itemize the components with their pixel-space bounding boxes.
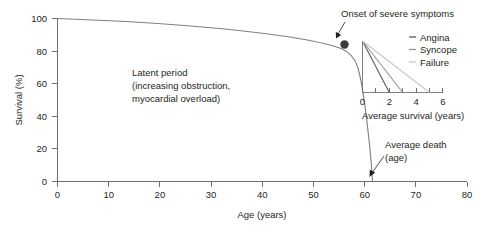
y-tick-label-20: 20 xyxy=(36,143,47,154)
x-axis-tick-labels: 0 10 20 30 40 50 60 70 80 xyxy=(55,189,473,200)
y-tick-label-80: 80 xyxy=(36,46,47,57)
x-axis-ticks xyxy=(58,182,468,188)
inset-x-tick-label-4: 4 xyxy=(413,96,418,107)
inset-x-tick-label-2: 2 xyxy=(387,96,392,107)
x-axis-title: Age (years) xyxy=(237,209,286,220)
legend-label-angina: Angina xyxy=(420,32,450,43)
inset-legend: Angina Syncope Failure xyxy=(409,32,457,68)
onset-annotation-label: Onset of severe symptoms xyxy=(341,8,454,19)
average-death-line-1: Average death xyxy=(385,139,447,150)
legend-label-failure: Failure xyxy=(420,57,449,68)
y-tick-label-60: 60 xyxy=(36,78,47,89)
legend-label-syncope: Syncope xyxy=(420,44,457,55)
x-tick-label-80: 80 xyxy=(462,189,473,200)
average-death-annotation: Average death (age) xyxy=(370,139,447,177)
inset-x-axis-title: Average survival (years) xyxy=(362,110,464,121)
x-tick-label-50: 50 xyxy=(308,189,319,200)
y-tick-label-40: 40 xyxy=(36,111,47,122)
y-axis-ticks xyxy=(52,19,58,182)
x-tick-label-10: 10 xyxy=(103,189,114,200)
x-tick-label-30: 30 xyxy=(206,189,217,200)
x-tick-label-20: 20 xyxy=(155,189,166,200)
y-tick-label-100: 100 xyxy=(31,13,47,24)
x-tick-label-70: 70 xyxy=(411,189,422,200)
latent-period-line-1: Latent period xyxy=(132,67,187,78)
average-death-line-2: (age) xyxy=(385,152,407,163)
latent-period-line-2: (increasing obstruction, xyxy=(132,80,230,91)
x-tick-label-40: 40 xyxy=(257,189,268,200)
y-axis-title: Survival (%) xyxy=(13,74,24,125)
latent-period-line-3: myocardial overload) xyxy=(132,93,220,104)
inset-x-tick-label-6: 6 xyxy=(440,96,445,107)
inset-x-tick-label-0: 0 xyxy=(360,96,365,107)
inset-line-angina xyxy=(363,41,390,93)
x-tick-label-0: 0 xyxy=(55,189,60,200)
y-axis-tick-labels: 100 80 60 40 20 0 xyxy=(31,13,47,187)
inset-chart: 0 2 4 6 Average survival (years) Angina … xyxy=(360,32,464,122)
latent-period-annotation: Latent period (increasing obstruction, m… xyxy=(132,67,230,104)
x-tick-label-60: 60 xyxy=(359,189,370,200)
y-tick-label-0: 0 xyxy=(42,176,47,187)
onset-marker-dot xyxy=(340,40,348,48)
survival-curve-figure: 100 80 60 40 20 0 0 10 20 30 40 50 xyxy=(0,0,485,235)
